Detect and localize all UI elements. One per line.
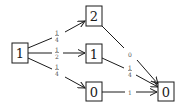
- edge-label-mid-end: 1 4: [128, 64, 132, 78]
- svg-text:4: 4: [55, 70, 59, 77]
- node-mid: 1: [86, 44, 102, 63]
- edge-label-start-mid: 1 2: [55, 46, 59, 60]
- edge-label-start-bot: 1 4: [55, 63, 59, 77]
- svg-text:2: 2: [90, 9, 98, 24]
- node-start: 1: [12, 43, 28, 63]
- svg-text:4: 4: [128, 71, 132, 78]
- svg-text:0: 0: [128, 51, 132, 58]
- edge-label-start-top: 1 4: [55, 29, 59, 43]
- edge-label-bot-end: 1: [128, 89, 132, 96]
- svg-text:4: 4: [55, 36, 59, 43]
- svg-text:1: 1: [16, 46, 24, 61]
- svg-text:1: 1: [55, 29, 59, 36]
- node-end: 0: [158, 82, 174, 101]
- node-bot: 0: [86, 82, 102, 101]
- diagram-canvas: 1 4 1 2 1 4 0 1 4 1 1 2 1 0 0: [0, 0, 183, 111]
- svg-text:1: 1: [128, 89, 132, 96]
- svg-text:0: 0: [90, 85, 98, 100]
- svg-text:1: 1: [55, 46, 59, 53]
- svg-text:1: 1: [128, 64, 132, 71]
- node-top: 2: [86, 6, 102, 26]
- edge-label-top-end: 0: [128, 51, 132, 58]
- svg-text:1: 1: [90, 47, 98, 62]
- svg-text:1: 1: [55, 63, 59, 70]
- svg-text:2: 2: [55, 53, 59, 60]
- svg-text:0: 0: [162, 85, 170, 100]
